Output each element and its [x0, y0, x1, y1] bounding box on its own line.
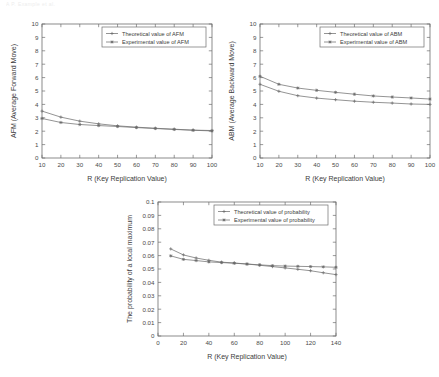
x-tick-label: 50	[332, 161, 339, 168]
x-tick-label: 80	[171, 161, 178, 168]
chart-legend: Theoretical value of AFMExperimental val…	[102, 27, 206, 47]
x-tick-label: 10	[39, 161, 46, 168]
y-tick-label: 0.09	[142, 212, 155, 219]
x-tick-label: 30	[76, 161, 83, 168]
x-tick-label: 70	[370, 161, 377, 168]
abm-chart-figure: 102030405060708090100012345678910R (Key …	[224, 14, 436, 192]
series-line-1	[42, 118, 212, 130]
y-axis-label: The probability of a local maximum	[126, 215, 134, 323]
y-tick-label: 2	[253, 128, 257, 135]
y-tick-label: 7	[35, 61, 39, 68]
x-tick-label: 100	[280, 339, 291, 346]
y-axis-label: ABM (Average Backward Move)	[228, 41, 236, 140]
x-tick-label: 0	[156, 339, 160, 346]
y-tick-label: 0.01	[142, 319, 155, 326]
y-tick-label: 0.08	[142, 225, 155, 232]
x-tick-label: 30	[294, 161, 301, 168]
x-tick-label: 40	[313, 161, 320, 168]
x-axis-label: R (Key Replication Value)	[207, 353, 287, 361]
y-tick-label: 0	[253, 154, 257, 161]
y-tick-label: 0.03	[142, 292, 155, 299]
afm-chart-figure: 102030405060708090100012345678910R (Key …	[6, 14, 218, 192]
x-tick-label: 40	[95, 161, 102, 168]
x-axis-label: R (Key Replication Value)	[305, 175, 385, 183]
x-tick-label: 40	[205, 339, 212, 346]
y-tick-label: 0.05	[142, 265, 155, 272]
x-tick-label: 20	[57, 161, 64, 168]
y-tick-label: 8	[35, 47, 39, 54]
legend-label: Experimental value of AFM	[122, 39, 189, 45]
y-axis-label: AFM (Average Forward Move)	[10, 44, 18, 138]
y-tick-label: 6	[35, 74, 39, 81]
x-tick-label: 100	[425, 161, 436, 168]
x-tick-label: 20	[180, 339, 187, 346]
x-tick-label: 60	[231, 339, 238, 346]
legend-label: Theoretical value of ABM	[340, 31, 403, 37]
probability-chart-figure: 02040608010012014000.010.020.030.040.050…	[110, 190, 342, 372]
x-tick-label: 10	[257, 161, 264, 168]
series-line-0	[260, 84, 430, 104]
y-tick-label: 5	[35, 87, 39, 94]
page-header-text: A P. Example et al.	[6, 1, 206, 10]
afm-chart-svg: 102030405060708090100012345678910R (Key …	[6, 14, 218, 192]
y-tick-label: 4	[35, 101, 39, 108]
y-tick-label: 9	[253, 34, 257, 41]
x-tick-label: 50	[114, 161, 121, 168]
series-line-0	[42, 111, 212, 130]
series-line-1	[260, 76, 430, 99]
x-tick-label: 60	[351, 161, 358, 168]
y-tick-label: 4	[253, 101, 257, 108]
x-tick-label: 70	[152, 161, 159, 168]
y-tick-label: 3	[253, 114, 257, 121]
x-tick-label: 100	[207, 161, 218, 168]
x-tick-label: 80	[389, 161, 396, 168]
chart-legend: Theoretical value of probabilityExperime…	[214, 205, 328, 225]
y-tick-label: 0.02	[142, 306, 155, 313]
x-tick-label: 20	[275, 161, 282, 168]
y-tick-label: 7	[253, 61, 257, 68]
legend-label: Theoretical value of AFM	[122, 31, 184, 37]
abm-chart-svg: 102030405060708090100012345678910R (Key …	[224, 14, 436, 192]
y-tick-label: 0.06	[142, 252, 155, 259]
y-tick-label: 6	[253, 74, 257, 81]
y-tick-label: 1	[35, 141, 39, 148]
legend-label: Experimental value of probability	[234, 217, 315, 223]
y-tick-label: 5	[253, 87, 257, 94]
y-tick-label: 0.1	[146, 198, 155, 205]
x-tick-label: 60	[133, 161, 140, 168]
x-tick-label: 90	[190, 161, 197, 168]
chart-legend: Theoretical value of ABMExperimental val…	[320, 27, 424, 47]
legend-label: Theoretical value of probability	[234, 209, 310, 215]
y-tick-label: 10	[250, 20, 257, 27]
x-tick-label: 90	[408, 161, 415, 168]
y-tick-label: 3	[35, 114, 39, 121]
x-axis-label: R (Key Replication Value)	[87, 175, 167, 183]
probability-chart-svg: 02040608010012014000.010.020.030.040.050…	[110, 190, 342, 372]
y-tick-label: 1	[253, 141, 257, 148]
x-tick-label: 80	[256, 339, 263, 346]
legend-label: Experimental value of ABM	[340, 39, 407, 45]
y-tick-label: 9	[35, 34, 39, 41]
y-tick-label: 0	[35, 154, 39, 161]
y-tick-label: 0.07	[142, 239, 155, 246]
y-tick-label: 0.04	[142, 279, 155, 286]
x-tick-label: 140	[331, 339, 342, 346]
x-tick-label: 120	[305, 339, 316, 346]
y-tick-label: 10	[32, 20, 39, 27]
y-tick-label: 0	[151, 332, 155, 339]
y-tick-label: 8	[253, 47, 257, 54]
y-tick-label: 2	[35, 128, 39, 135]
